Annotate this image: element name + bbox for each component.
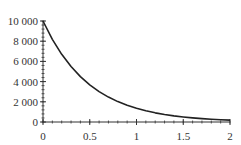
x-tick-label: 1.5 (176, 130, 190, 142)
x-tick-label: 0.5 (83, 130, 97, 142)
y-axis-tick-labels: 02 0004 0006 0008 00010 000 (8, 15, 39, 128)
decay-curve (43, 21, 230, 120)
y-tick-label: 4 000 (13, 76, 38, 88)
y-tick-label: 0 (33, 116, 39, 128)
x-tick-label: 1 (134, 130, 140, 142)
x-axis-tick-labels: 00.511.52 (40, 130, 233, 142)
x-tick-label: 0 (40, 130, 46, 142)
decay-chart: 02 0004 0006 0008 00010 000 00.511.52 (0, 0, 241, 145)
y-tick-label: 10 000 (8, 15, 39, 27)
y-tick-label: 2 000 (13, 96, 38, 108)
y-tick-label: 6 000 (13, 55, 38, 67)
major-ticks (40, 21, 230, 125)
x-tick-label: 2 (227, 130, 233, 142)
y-tick-label: 8 000 (13, 35, 38, 47)
